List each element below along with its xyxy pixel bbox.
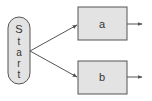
node-a: a — [78, 7, 127, 40]
start-letter: t — [18, 36, 21, 47]
flowchart-canvas: S t a r t a b — [0, 0, 152, 101]
start-letter: S — [15, 23, 22, 35]
start-letter: t — [18, 69, 21, 80]
node-b: b — [78, 61, 127, 94]
node-b-label: b — [99, 71, 105, 83]
node-a-label: a — [99, 18, 106, 30]
start-letter: a — [16, 47, 22, 58]
start-node: S t a r t — [8, 17, 30, 84]
edge-start-b — [30, 51, 77, 77]
edge-start-a — [30, 25, 77, 51]
